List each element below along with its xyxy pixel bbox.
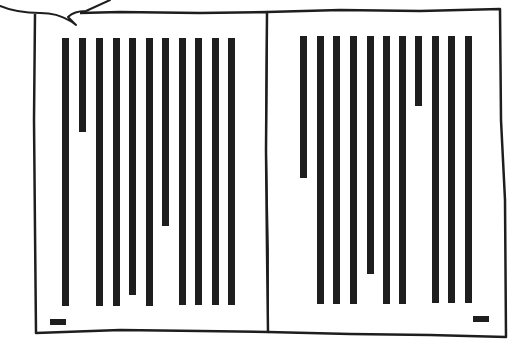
right-page-number-marker xyxy=(473,316,489,322)
text-column-bar xyxy=(367,36,374,274)
text-column-bar xyxy=(146,38,153,306)
comic-panel xyxy=(0,0,532,347)
left-page-text-columns xyxy=(62,38,235,306)
text-column-bar xyxy=(62,38,69,306)
text-column-bar xyxy=(317,36,324,304)
text-column-bar xyxy=(333,36,340,304)
text-column-bar xyxy=(383,36,390,304)
text-column-bar xyxy=(448,36,455,303)
text-column-bar xyxy=(79,38,86,132)
text-column-bar xyxy=(212,38,219,305)
text-column-bar xyxy=(432,36,439,303)
text-column-bar xyxy=(195,38,202,305)
text-column-bar xyxy=(350,36,357,304)
text-column-bar xyxy=(162,38,169,226)
text-column-bar xyxy=(96,38,103,306)
left-page-number-marker xyxy=(50,319,66,325)
text-column-bar xyxy=(228,38,235,305)
text-column-bar xyxy=(465,36,472,303)
text-column-bar xyxy=(129,38,136,295)
text-column-bar xyxy=(179,38,186,305)
right-page-text-columns xyxy=(300,36,472,304)
text-column-bar xyxy=(300,36,307,178)
text-column-bar xyxy=(113,38,120,306)
text-column-bar xyxy=(415,36,422,106)
text-column-bar xyxy=(399,36,406,304)
